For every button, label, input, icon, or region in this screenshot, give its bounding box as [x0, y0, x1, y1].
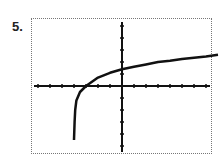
function-curve [74, 55, 218, 140]
graph [0, 0, 224, 168]
